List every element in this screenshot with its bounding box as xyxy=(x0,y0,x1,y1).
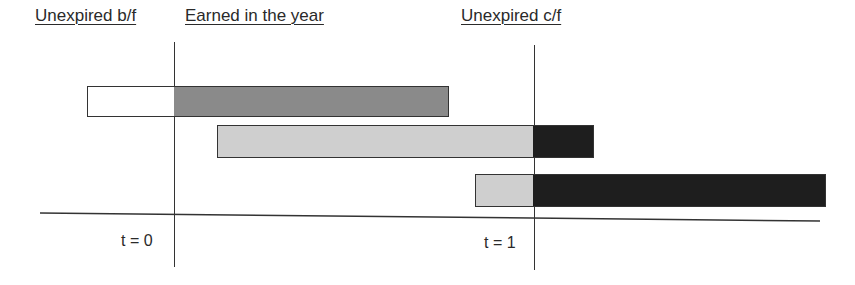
segment-unexpired-bf xyxy=(88,87,174,116)
segment-unexpired-cf xyxy=(533,126,593,157)
contract-bar-3 xyxy=(475,174,826,207)
t0-marker-line xyxy=(174,42,175,267)
segment-earned xyxy=(218,126,533,157)
segment-earned xyxy=(476,175,533,206)
segment-earned xyxy=(174,87,448,116)
label-t1: t = 1 xyxy=(484,234,516,252)
segment-unexpired-cf xyxy=(533,175,825,206)
contract-bar-2 xyxy=(217,125,594,158)
label-t0: t = 0 xyxy=(121,232,153,250)
contract-bar-1 xyxy=(87,86,449,117)
